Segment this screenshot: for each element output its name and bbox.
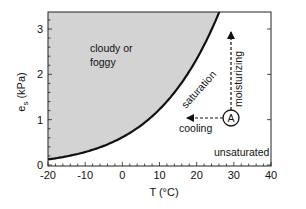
cloudy-label: cloudy or (90, 42, 133, 54)
x-tick-label: 20 (191, 169, 203, 181)
moisturizing-label: moisturizing (232, 51, 244, 107)
cooling-label: cooling (179, 122, 212, 134)
foggy-label: foggy (90, 56, 116, 68)
y-tick-label: 3 (37, 23, 43, 35)
x-tick-label: 30 (228, 169, 240, 181)
point-a-label: A (227, 112, 234, 124)
saturation-vapor-pressure-chart: -20-10010203040 0123 T (°C) es (kPa) clo… (0, 0, 306, 209)
y-tick-label: 2 (37, 68, 43, 80)
y-tick-label: 0 (37, 159, 43, 171)
unsaturated-label: unsaturated (214, 146, 270, 158)
x-axis-title: T (°C) (149, 186, 178, 198)
y-tick-label: 1 (37, 114, 43, 126)
y-axis-title: es (kPa) (15, 72, 30, 111)
x-tick-label: 10 (153, 169, 165, 181)
x-axis: -20-10010203040 (40, 162, 277, 181)
point-a-marker: A (223, 110, 239, 126)
x-tick-label: 40 (265, 169, 277, 181)
x-tick-label: -10 (77, 169, 93, 181)
x-tick-label: 0 (119, 169, 125, 181)
